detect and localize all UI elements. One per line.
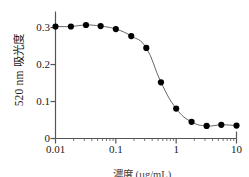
x-tick-label: 0.1 bbox=[109, 144, 123, 155]
data-point bbox=[113, 26, 119, 32]
x-axis-title: 濃度 (µg/mL) bbox=[42, 166, 242, 177]
data-markers bbox=[52, 22, 239, 129]
data-point bbox=[158, 79, 164, 85]
data-point bbox=[128, 33, 134, 39]
x-tick-label: 10 bbox=[231, 144, 242, 155]
data-point bbox=[68, 23, 74, 29]
data-point bbox=[188, 119, 194, 125]
x-axis-tick-labels: 0.010.1110 bbox=[0, 144, 249, 158]
data-point bbox=[173, 105, 179, 111]
chart-figure: 520 nm 吸光度 00.10.20.3 0.010.1110 濃度 (µg/… bbox=[0, 0, 249, 177]
data-point bbox=[143, 45, 149, 51]
data-line bbox=[56, 25, 237, 126]
data-point bbox=[52, 23, 58, 29]
data-point bbox=[218, 122, 224, 128]
axis-lines bbox=[56, 12, 237, 139]
x-tick-label: 0.01 bbox=[46, 144, 65, 155]
data-point bbox=[233, 122, 239, 128]
x-axis-ticks bbox=[56, 139, 237, 144]
data-point bbox=[204, 123, 210, 129]
x-tick-label: 1 bbox=[173, 144, 179, 155]
data-point bbox=[98, 23, 104, 29]
data-point bbox=[83, 22, 89, 28]
y-axis-ticks bbox=[51, 28, 56, 139]
